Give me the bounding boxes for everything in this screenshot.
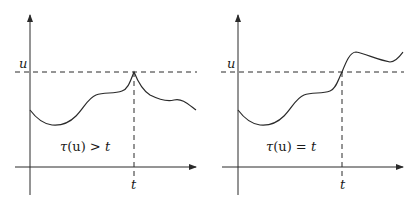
right-u-label: u	[227, 56, 235, 71]
left-panel: u t τ(u) > t	[15, 15, 197, 195]
left-process-curve	[30, 72, 196, 125]
right-annotation: τ(u) = t	[266, 139, 317, 154]
diagram-canvas: u t τ(u) > t u t τ(u) = t	[0, 0, 418, 205]
left-annotation: τ(u) > t	[60, 139, 111, 154]
right-t-label: t	[340, 177, 346, 192]
left-u-label: u	[19, 56, 27, 71]
right-panel: u t τ(u) = t	[221, 15, 404, 195]
right-process-curve	[238, 52, 403, 125]
left-t-label: t	[131, 177, 137, 192]
